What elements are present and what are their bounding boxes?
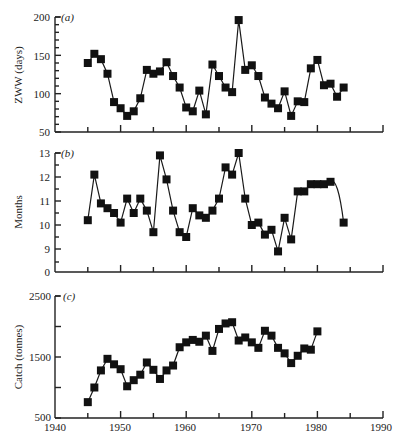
data-point-marker <box>222 163 230 171</box>
data-point-marker <box>287 112 295 120</box>
data-point-marker <box>294 352 302 360</box>
panel-a: (a) ZWW (days) 200 150 100 50 <box>12 11 383 138</box>
data-point-marker <box>281 349 289 357</box>
data-point-marker <box>313 56 321 64</box>
data-point-marker <box>313 327 321 335</box>
data-point-marker <box>254 72 262 80</box>
data-point-marker <box>287 235 295 243</box>
data-point-marker <box>208 207 216 215</box>
data-point-marker <box>169 207 177 215</box>
data-point-marker <box>130 209 138 217</box>
ytick-label: 13 <box>39 147 51 159</box>
data-point-marker <box>136 371 144 379</box>
xtick-label: 1950 <box>109 421 132 433</box>
data-point-marker <box>215 195 223 203</box>
data-point-marker <box>235 16 243 24</box>
data-point-marker <box>189 204 197 212</box>
data-point-marker <box>130 107 138 115</box>
data-point-marker <box>235 149 243 157</box>
data-point-marker <box>267 226 275 234</box>
data-point-marker <box>136 94 144 102</box>
x-axis-tick-labels: 1940 1950 1960 1970 1980 1990 <box>44 421 393 433</box>
figure: (a) ZWW (days) 200 150 100 50 (b) Months… <box>0 0 402 446</box>
panel-b-ytick-labels: 13 12 11 10 9 0 <box>39 147 51 278</box>
panel-b-series <box>84 149 348 255</box>
data-point-marker <box>307 346 315 354</box>
data-point-marker <box>84 216 92 224</box>
data-point-marker <box>327 178 335 186</box>
panel-a-series <box>84 16 348 120</box>
data-point-marker <box>149 366 157 374</box>
data-point-marker <box>267 332 275 340</box>
data-point-marker <box>300 98 308 106</box>
xtick-label: 1990 <box>370 421 393 433</box>
data-point-marker <box>215 72 223 80</box>
data-point-marker <box>163 58 171 66</box>
data-point-marker <box>202 214 210 222</box>
data-point-marker <box>300 187 308 195</box>
data-point-marker <box>195 87 203 95</box>
data-point-marker <box>274 104 282 112</box>
data-point-marker <box>143 358 151 366</box>
panel-c: (c) Catch (tonnes) 2500 1500 500 1940 19… <box>12 290 393 433</box>
ytick-label: 12 <box>39 171 50 183</box>
data-point-marker <box>156 67 164 75</box>
data-point-marker <box>254 344 262 352</box>
data-point-marker <box>149 228 157 236</box>
data-point-marker <box>340 219 348 227</box>
data-point-marker <box>287 359 295 367</box>
data-point-marker <box>228 171 236 179</box>
data-point-marker <box>228 318 236 326</box>
data-point-marker <box>156 375 164 383</box>
ytick-label: 2500 <box>29 290 52 302</box>
data-point-marker <box>176 84 184 92</box>
data-point-marker <box>202 110 210 118</box>
ytick-label: 150 <box>34 50 51 62</box>
ytick-label: 200 <box>34 11 51 23</box>
panel-c-tag: (c) <box>63 290 76 303</box>
data-point-marker <box>97 366 105 374</box>
data-point-marker <box>169 72 177 80</box>
panel-c-ylabel: Catch (tonnes) <box>12 324 25 389</box>
data-point-marker <box>84 59 92 67</box>
data-point-marker <box>208 61 216 69</box>
data-point-marker <box>333 93 341 101</box>
data-point-marker <box>248 61 256 69</box>
panel-b-tag: (b) <box>61 147 74 160</box>
data-point-marker <box>136 195 144 203</box>
data-point-marker <box>156 151 164 159</box>
data-point-marker <box>208 347 216 355</box>
ytick-label: 1500 <box>29 351 52 363</box>
data-point-marker <box>163 175 171 183</box>
xtick-label: 1940 <box>44 421 67 433</box>
data-point-marker <box>274 247 282 255</box>
data-point-marker <box>90 384 98 392</box>
panel-b: (b) Months 13 12 11 10 9 0 <box>12 147 383 278</box>
xtick-label: 1960 <box>174 421 197 433</box>
panel-c-series <box>84 318 322 406</box>
ytick-label: 11 <box>39 195 50 207</box>
ytick-label: 100 <box>34 88 51 100</box>
panel-a-ylabel: ZWW (days) <box>12 46 25 104</box>
ytick-label: 0 <box>45 266 51 278</box>
data-point-marker <box>103 70 111 78</box>
data-point-marker <box>327 80 335 88</box>
data-point-marker <box>117 104 125 112</box>
data-point-marker <box>182 233 190 241</box>
data-point-marker <box>117 219 125 227</box>
panel-b-ylabel: Months <box>12 195 24 229</box>
xtick-label: 1970 <box>240 421 263 433</box>
panel-b-axes <box>55 153 383 272</box>
panel-a-tag: (a) <box>61 11 74 24</box>
ytick-label: 50 <box>39 126 51 138</box>
data-point-marker <box>84 398 92 406</box>
data-point-marker <box>189 107 197 115</box>
data-point-marker <box>307 64 315 72</box>
data-point-marker <box>123 195 131 203</box>
data-point-marker <box>143 207 151 215</box>
data-point-marker <box>169 362 177 370</box>
ytick-label: 9 <box>45 243 51 255</box>
data-point-marker <box>241 195 249 203</box>
data-point-marker <box>202 332 210 340</box>
data-point-marker <box>228 88 236 96</box>
